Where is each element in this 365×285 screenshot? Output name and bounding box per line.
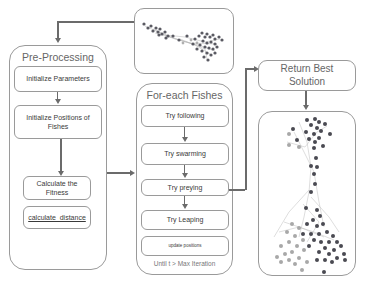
connector: [305, 91, 307, 106]
step-label: Initialize Parameters: [26, 74, 89, 83]
arrow-down-icon: [182, 137, 188, 142]
step-initialize-parameters: Initialize Parameters: [14, 66, 102, 92]
step-try-swarming: Try swarming: [141, 143, 229, 165]
preprocessing-title: Pre-Processing: [10, 51, 106, 63]
step-label: Try swarming: [164, 149, 206, 158]
arrow-down-icon: [55, 38, 61, 43]
loop-condition: Until t > Max Iteration: [137, 260, 232, 267]
step-label: calculate_distance: [28, 213, 86, 222]
loop-title: For-each Fishes: [137, 89, 232, 101]
arrow-down-icon: [303, 105, 309, 110]
connector: [245, 68, 247, 190]
initial-graph-box: [134, 8, 234, 74]
arrow-down-icon: [55, 99, 61, 104]
arrow-down-icon: [182, 204, 188, 209]
step-calculate-fitness: Calculate the Fitness: [23, 176, 91, 200]
step-label: Try Leaping: [167, 215, 204, 224]
step-label: Calculate the Fitness: [27, 179, 87, 198]
connector: [229, 189, 245, 191]
arrow-down-icon: [58, 171, 64, 176]
arrow-right-icon: [130, 170, 135, 176]
step-label: Try following: [165, 111, 204, 120]
step-try-leaping: Try Leaping: [141, 210, 229, 230]
arrow-down-icon: [182, 173, 188, 178]
step-initialize-positions: Initialize Positions of Fishes: [14, 105, 102, 139]
connector: [107, 172, 131, 174]
connector: [57, 21, 134, 23]
final-graph-box: [258, 111, 356, 276]
initial-network-graph: [135, 9, 235, 75]
step-label: update positions: [169, 243, 202, 249]
step-label: Try preying: [168, 183, 203, 192]
step-try-following: Try following: [141, 105, 229, 127]
step-try-preying: Try preying: [141, 179, 229, 196]
step-calculate-distance: calculate_distance: [23, 206, 91, 229]
return-best-solution-box: Return Best Solution: [258, 60, 356, 91]
best-solution-network-graph: [259, 112, 357, 277]
result-title: Return Best Solution: [272, 63, 342, 88]
step-label: Initialize Positions of Fishes: [18, 113, 98, 132]
connector: [57, 21, 59, 39]
step-update-positions: update positions: [141, 236, 229, 256]
connector: [60, 139, 62, 172]
